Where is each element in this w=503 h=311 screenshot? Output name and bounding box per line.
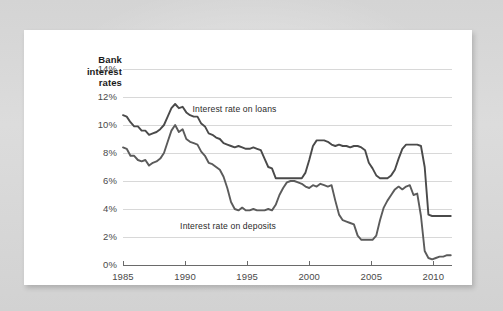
series-line (123, 125, 451, 259)
chart-area: Bank interest rates 0%2%4%6%8%10%12%14% … (24, 30, 472, 285)
x-axis-tick (247, 261, 248, 265)
series-line (123, 104, 451, 216)
x-tick-label: 1990 (165, 271, 205, 282)
x-axis-tick (309, 261, 310, 265)
plot-lines (24, 30, 472, 285)
x-tick-label: 1985 (103, 271, 143, 282)
x-tick-label: 2005 (351, 271, 391, 282)
series-annotation: Interest rate on deposits (180, 221, 276, 231)
x-tick-label: 1995 (227, 271, 267, 282)
screenshot-root: Bank interest rates 0%2%4%6%8%10%12%14% … (0, 0, 503, 311)
x-axis-tick (185, 261, 186, 265)
chart-page: Bank interest rates 0%2%4%6%8%10%12%14% … (24, 30, 472, 285)
x-axis-line (123, 265, 452, 266)
x-axis-tick (371, 261, 372, 265)
x-tick-label: 2000 (289, 271, 329, 282)
x-axis-tick (433, 261, 434, 265)
x-tick-label: 2010 (413, 271, 453, 282)
x-axis-left-cap (123, 261, 124, 266)
series-annotation: Interest rate on loans (193, 104, 277, 114)
